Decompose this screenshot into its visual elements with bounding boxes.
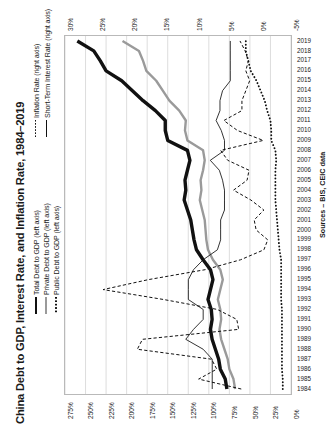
legend-label-inflation-rate: Inflation Rate (right axis): [33, 44, 41, 118]
series-line-4: [186, 41, 231, 389]
year-axis-tick: 1994: [297, 285, 311, 292]
series-line-1: [123, 41, 236, 389]
left-axis-tick: 175%: [149, 402, 156, 419]
year-axis-tick: 2013: [297, 96, 311, 103]
year-axis-tick: 1985: [297, 375, 311, 382]
left-axis-tick: 125%: [190, 402, 197, 419]
year-axis-tick: 2003: [297, 196, 311, 203]
left-axis-tick: 275%: [67, 402, 74, 419]
legend-label-public-debt: Public Debt to GDP (left axis): [53, 206, 61, 295]
year-axis-tick: 2000: [297, 226, 311, 233]
legend-key-inflation-rate: [35, 120, 36, 137]
left-axis-tick: 150%: [169, 402, 176, 419]
year-axis-tick: 1988: [297, 345, 311, 352]
left-axis-tick: 25%: [272, 406, 279, 419]
year-axis-tick: 2015: [297, 76, 311, 83]
year-axis-tick: 1987: [297, 355, 311, 362]
year-axis-tick: 1995: [297, 275, 311, 282]
year-axis-tick: 2019: [297, 37, 311, 44]
right-axis-tick: 30%: [67, 18, 74, 31]
left-axis-tick: 75%: [231, 406, 238, 419]
year-axis-tick: 2009: [297, 136, 311, 143]
right-axis-tick: 25%: [99, 18, 106, 31]
year-axis-tick: 2005: [297, 176, 311, 183]
year-axis-tick: 1997: [297, 255, 311, 262]
year-axis-tick: 2018: [297, 47, 311, 54]
series-line-3: [103, 41, 268, 389]
left-axis-tick: 200%: [128, 402, 135, 419]
right-axis-tick: 15%: [163, 18, 170, 31]
legend-key-private-debt: [45, 297, 47, 314]
chart-title: China Debt to GDP, Interest Rate, and In…: [14, 102, 26, 424]
plot-svg: [65, 36, 291, 394]
year-axis-tick: 2010: [297, 126, 311, 133]
right-axis-tick: 5%: [228, 21, 235, 31]
year-axis-tick: 1984: [297, 385, 311, 392]
legend-label-total-debt: Total Debt to GDP (left axis): [33, 210, 41, 295]
left-axis-tick: 225%: [108, 402, 115, 419]
year-axis-tick: 1989: [297, 335, 311, 342]
year-axis-tick: 1990: [297, 325, 311, 332]
right-axis-tick: -5%: [293, 19, 300, 31]
left-axis-tick: 50%: [252, 406, 259, 419]
source-note: Sources – BIS, CEIC data: [318, 152, 327, 238]
year-axis-tick: 1999: [297, 235, 311, 242]
year-axis-tick: 1996: [297, 265, 311, 272]
year-axis-tick: 1986: [297, 365, 311, 372]
year-axis-tick: 1992: [297, 305, 311, 312]
right-axis-tick: 20%: [131, 18, 138, 31]
year-axis-tick: 2014: [297, 86, 311, 93]
year-axis-tick: 2001: [297, 216, 311, 223]
legend-label-short-term-interest-rate: Short-Term Interest Rate (right axis): [44, 9, 52, 118]
legend-key-public-debt: [55, 297, 57, 314]
legend-key-short-term-interest-rate: [46, 120, 47, 137]
year-axis-tick: 1998: [297, 245, 311, 252]
left-axis-tick: 0%: [293, 409, 300, 419]
year-axis-tick: 2016: [297, 66, 311, 73]
year-axis-tick: 2006: [297, 166, 311, 173]
year-axis-tick: 2011: [297, 116, 311, 123]
right-axis-tick: 10%: [196, 18, 203, 31]
left-axis-tick: 250%: [87, 402, 94, 419]
left-axis-tick: 100%: [210, 402, 217, 419]
year-axis-tick: 2012: [297, 106, 311, 113]
legend-label-private-debt: Private Debt to GDP (left axis): [43, 203, 51, 295]
year-axis-tick: 2017: [297, 56, 311, 63]
year-axis-tick: 2004: [297, 186, 311, 193]
year-axis-tick: 2002: [297, 206, 311, 213]
legend-key-total-debt: [35, 297, 37, 314]
right-axis-tick: 0%: [260, 21, 267, 31]
year-axis-tick: 1991: [297, 315, 311, 322]
year-axis-tick: 1993: [297, 295, 311, 302]
year-axis-tick: 2007: [297, 156, 311, 163]
year-axis-tick: 2008: [297, 146, 311, 153]
series-line-2: [246, 41, 283, 389]
plot-area: [64, 35, 292, 395]
